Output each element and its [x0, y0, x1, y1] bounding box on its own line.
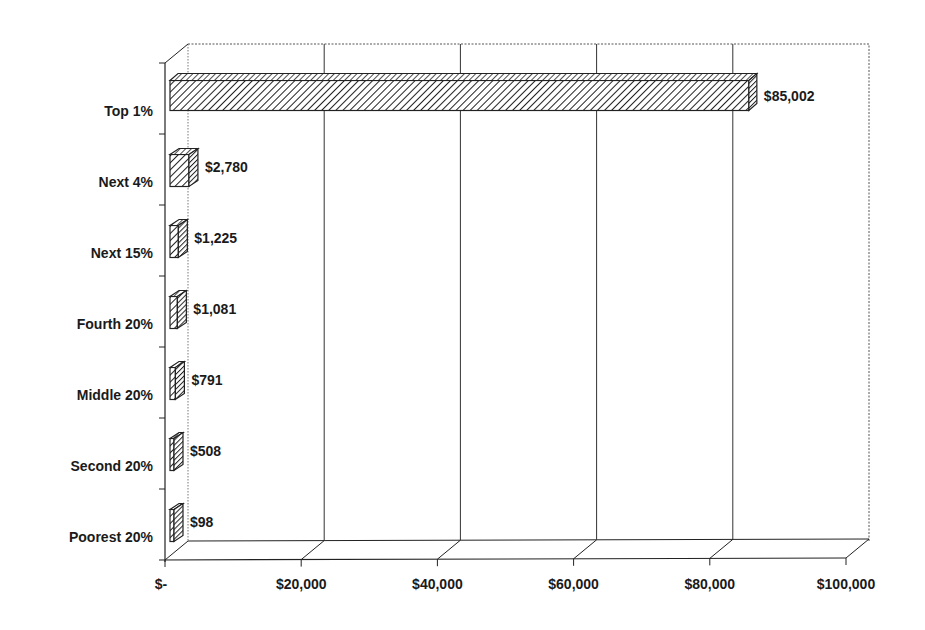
category-label: Next 4% [99, 174, 154, 190]
bar-front-face [170, 226, 178, 258]
left-wall-top-edge [165, 44, 188, 63]
data-label: $1,081 [193, 301, 236, 317]
back-wall-outline [188, 44, 869, 541]
value-axis-label: $80,000 [684, 576, 735, 592]
value-axis-label: $100,000 [817, 576, 876, 592]
bar-front-face [170, 155, 189, 187]
category-label: Poorest 20% [69, 529, 154, 545]
data-label: $98 [190, 514, 214, 530]
floor-gridline [574, 540, 597, 559]
value-axis-labels: $-$20,000$40,000$60,000$80,000$100,000 [155, 576, 876, 592]
bar-side-face [749, 74, 757, 111]
floor-gridline [301, 541, 324, 560]
bars: $85,002$2,780$1,225$1,081$791$508$98 [170, 74, 815, 542]
bar: $1,225 [170, 220, 237, 258]
floor-gridline [165, 541, 188, 560]
bar: $2,780 [170, 149, 248, 187]
data-label: $791 [191, 372, 222, 388]
category-label: Fourth 20% [77, 316, 154, 332]
value-axis-label: $40,000 [412, 576, 463, 592]
bar: $98 [170, 504, 214, 542]
bar-side-face [189, 149, 198, 187]
bar: $85,002 [170, 74, 815, 111]
bar-top-face [170, 74, 757, 81]
bar-side-face [174, 504, 183, 542]
bar-side-face [178, 220, 187, 258]
floor-back-edge [188, 539, 869, 541]
bar-front-face [170, 81, 749, 111]
bar: $791 [170, 362, 223, 400]
data-label: $2,780 [205, 159, 248, 175]
value-axis [159, 558, 846, 560]
floor-gridline [710, 539, 733, 558]
bar: $508 [170, 433, 221, 471]
gridlines [165, 44, 869, 567]
value-axis-label: $- [155, 576, 168, 592]
category-label: Next 15% [91, 245, 154, 261]
bar-front-face [170, 368, 175, 400]
bar-side-face [177, 291, 186, 329]
floor-gridline [437, 540, 460, 559]
category-axis-labels: Top 1%Next 4%Next 15%Fourth 20%Middle 20… [69, 103, 154, 545]
data-label: $508 [190, 443, 221, 459]
value-axis-label: $60,000 [548, 576, 599, 592]
data-label: $1,225 [194, 230, 237, 246]
category-label: Top 1% [104, 103, 153, 119]
category-label: Second 20% [71, 458, 154, 474]
bar: $1,081 [170, 291, 236, 329]
floor-gridline [846, 539, 869, 558]
bar-side-face [175, 362, 184, 400]
bar-front-face [170, 297, 177, 329]
data-label: $85,002 [764, 88, 815, 104]
bar-side-face [174, 433, 183, 471]
value-axis-label: $20,000 [276, 576, 327, 592]
plot-area [159, 44, 869, 562]
category-label: Middle 20% [77, 387, 154, 403]
bar-chart: $85,002$2,780$1,225$1,081$791$508$98 Top… [0, 0, 925, 630]
